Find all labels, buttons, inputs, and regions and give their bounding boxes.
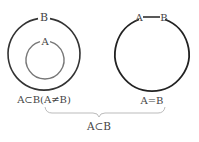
set-a-equals-b-circle (115, 20, 189, 92)
curly-brace (45, 107, 165, 117)
subset-caption: A⊂B (86, 120, 111, 132)
proper-subset-caption: A⊂B(A≠B) (16, 94, 71, 105)
equal-sets-caption: A=B (140, 95, 164, 106)
subset-diagram: B A A⊂B(A≠B) A B A=B A⊂B (0, 0, 199, 142)
set-a-inner-circle (26, 42, 64, 79)
set-a-label: A (40, 36, 49, 47)
set-a-label-right: A (134, 12, 143, 23)
set-b-label-right: B (160, 12, 167, 23)
set-b-label: B (40, 11, 48, 24)
